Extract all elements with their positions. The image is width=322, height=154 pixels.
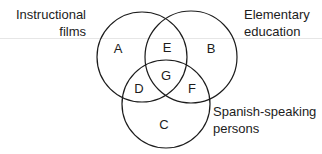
region-a: A xyxy=(114,41,123,56)
label-line: films xyxy=(16,23,86,40)
label-line: Elementary xyxy=(244,6,310,23)
label-elementary-education: Elementary education xyxy=(244,6,310,40)
region-g: G xyxy=(161,68,171,83)
label-line: education xyxy=(244,23,310,40)
label-spanish-speaking-persons: Spanish-speaking persons xyxy=(213,103,316,137)
region-c: C xyxy=(159,117,168,132)
region-e: E xyxy=(163,40,172,55)
label-line: Instructional xyxy=(16,6,86,23)
venn-diagram: A E B G D F C Instructional films Elemen… xyxy=(0,0,322,154)
region-d: D xyxy=(134,81,143,96)
label-instructional-films: Instructional films xyxy=(16,6,86,40)
label-line: Spanish-speaking xyxy=(213,103,316,120)
label-line: persons xyxy=(213,120,316,137)
region-f: F xyxy=(188,81,196,96)
region-b: B xyxy=(207,41,216,56)
